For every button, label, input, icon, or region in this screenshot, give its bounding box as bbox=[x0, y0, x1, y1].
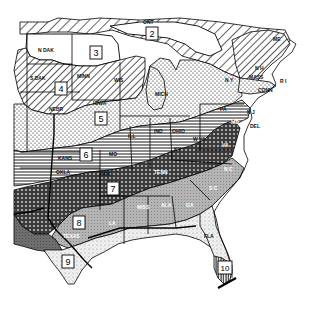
state-label-ill: ILL bbox=[128, 133, 136, 139]
zone-label-3: 3 bbox=[90, 46, 102, 59]
state-label-nebr: NEBR bbox=[49, 106, 64, 112]
state-label-pa: PA bbox=[220, 106, 227, 112]
state-label-ala: ALA bbox=[161, 202, 172, 208]
state-label-minn: MINN bbox=[77, 73, 90, 79]
state-label-nj: N J bbox=[247, 109, 255, 115]
state-label-mich: MICH bbox=[155, 91, 168, 97]
state-label-del: DEL bbox=[250, 123, 260, 129]
svg-text:6: 6 bbox=[83, 150, 88, 160]
zone-label-5: 5 bbox=[95, 112, 107, 125]
state-label-kans: KANS bbox=[58, 155, 73, 161]
state-label-ky: KY bbox=[174, 146, 182, 152]
state-label-va: VA bbox=[222, 142, 229, 148]
zone-label-9: 9 bbox=[62, 255, 74, 268]
svg-text:7: 7 bbox=[110, 184, 115, 194]
state-label-md: MD bbox=[231, 119, 239, 125]
svg-text:8: 8 bbox=[76, 218, 81, 228]
state-label-s-dak: S DAK bbox=[30, 75, 46, 81]
state-label-wis: WIS bbox=[114, 77, 124, 83]
state-label-miss: MISS bbox=[137, 204, 150, 210]
zone-label-8: 8 bbox=[73, 216, 85, 229]
state-label-nc: N C bbox=[224, 166, 233, 172]
zone-label-7: 7 bbox=[107, 182, 119, 195]
state-label-tenn: TENN bbox=[154, 169, 168, 175]
state-label-mo: MO bbox=[109, 151, 117, 157]
zone-label-4: 4 bbox=[55, 82, 67, 95]
state-label-iowa: IOWA bbox=[93, 100, 107, 106]
state-label-ind: IND bbox=[154, 128, 163, 134]
state-label-fla: FLA bbox=[204, 233, 214, 239]
state-label-ga: GA bbox=[186, 202, 194, 208]
state-label-ark: ARK bbox=[100, 171, 111, 177]
state-label-ont: ONT bbox=[143, 19, 154, 25]
state-label-ny: N Y bbox=[225, 77, 234, 83]
zone-map: ONT N DAK S DAK MINN WIS MICH NEBR IOWA … bbox=[0, 0, 316, 311]
zone-label-6: 6 bbox=[80, 148, 92, 161]
new-england-region bbox=[232, 30, 290, 94]
state-label-me: ME bbox=[273, 36, 281, 42]
state-label-ohio: OHIO bbox=[172, 128, 185, 134]
state-label-texas: TEXAS bbox=[63, 233, 80, 239]
state-label-mass: MASS bbox=[249, 74, 264, 80]
state-label-n-dak: N DAK bbox=[38, 47, 54, 53]
svg-text:9: 9 bbox=[65, 257, 70, 267]
state-label-ri: R I bbox=[280, 78, 287, 84]
svg-text:10: 10 bbox=[221, 264, 230, 273]
svg-text:2: 2 bbox=[149, 29, 154, 39]
svg-text:5: 5 bbox=[98, 114, 103, 124]
state-label-w-va: W VA bbox=[193, 136, 206, 142]
state-label-okla: OKLA bbox=[56, 169, 71, 175]
state-label-conn: CONN bbox=[258, 87, 273, 93]
svg-text:3: 3 bbox=[93, 48, 98, 58]
zone-label-10: 10 bbox=[218, 261, 232, 274]
zone-label-2: 2 bbox=[146, 27, 158, 40]
state-label-nh: N H bbox=[255, 65, 264, 71]
svg-text:4: 4 bbox=[58, 84, 63, 94]
state-label-la: LA bbox=[109, 220, 116, 226]
state-label-sc: S C bbox=[209, 185, 218, 191]
